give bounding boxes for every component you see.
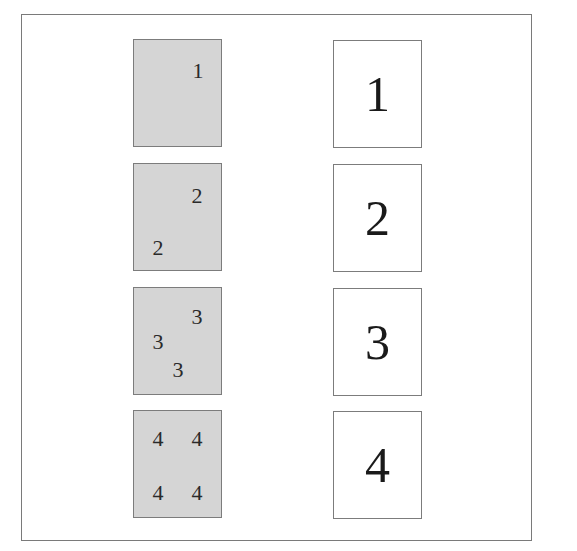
small-page-1: 1	[133, 39, 222, 147]
small-digit: 4	[153, 482, 164, 504]
small-digit: 2	[153, 237, 164, 259]
small-page-4: 4 4 4 4	[133, 410, 222, 518]
small-digit: 1	[193, 60, 204, 82]
small-digit: 4	[192, 428, 203, 450]
large-page-3: 3	[333, 288, 422, 396]
large-digit: 3	[365, 317, 390, 367]
small-digit: 4	[153, 428, 164, 450]
outer-frame	[21, 14, 532, 541]
large-page-4: 4	[333, 411, 422, 519]
small-page-2: 2 2	[133, 163, 222, 271]
small-digit: 2	[192, 185, 203, 207]
small-digit: 4	[192, 482, 203, 504]
large-page-1: 1	[333, 40, 422, 148]
large-page-2: 2	[333, 164, 422, 272]
large-digit: 1	[365, 69, 390, 119]
large-digit: 2	[365, 193, 390, 243]
small-digit: 3	[173, 359, 184, 381]
small-digit: 3	[192, 306, 203, 328]
small-digit: 3	[153, 331, 164, 353]
small-page-3: 3 3 3	[133, 287, 222, 395]
large-digit: 4	[365, 440, 390, 490]
